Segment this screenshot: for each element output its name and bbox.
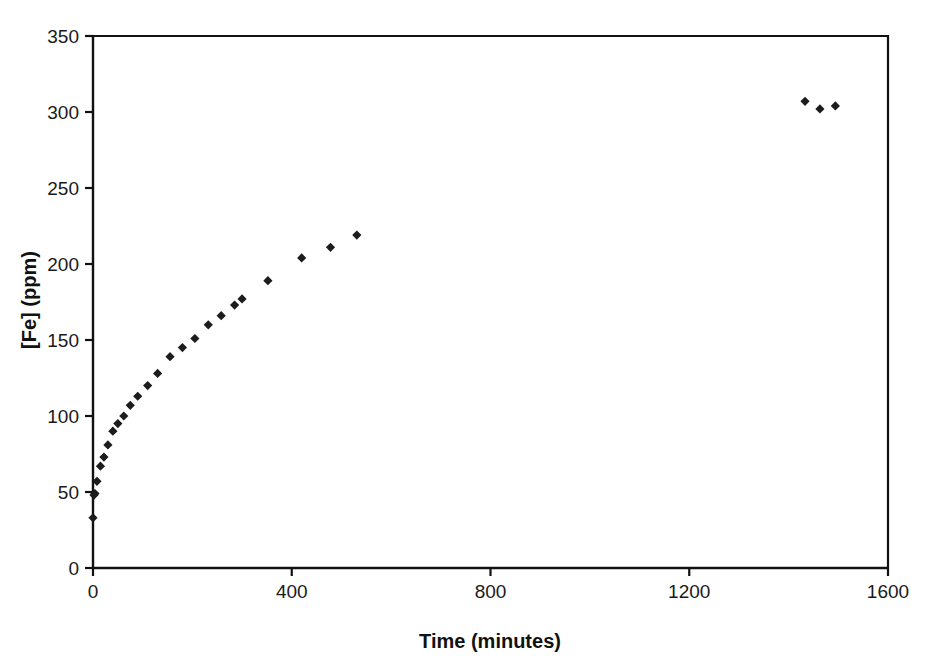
y-tick-label: 150 <box>47 330 79 351</box>
scatter-plot-canvas: 040080012001600 050100150200250300350 Ti… <box>0 0 933 661</box>
data-point-marker <box>263 276 272 285</box>
plot-frame <box>93 36 888 568</box>
y-tick-label: 350 <box>47 26 79 47</box>
data-point-marker <box>99 452 108 461</box>
y-tick-label: 200 <box>47 254 79 275</box>
data-point-marker <box>103 440 112 449</box>
data-point-marker <box>119 411 128 420</box>
y-tick-label: 50 <box>58 482 79 503</box>
data-point-marker <box>352 231 361 240</box>
data-point-marker <box>326 243 335 252</box>
y-tick-label: 0 <box>68 558 79 579</box>
chart-figure: 040080012001600 050100150200250300350 Ti… <box>0 0 933 661</box>
data-point-marker <box>800 97 809 106</box>
plot-border <box>93 36 888 568</box>
data-point-marker <box>153 369 162 378</box>
x-tick-label: 0 <box>88 581 99 602</box>
x-tick-label: 1200 <box>668 581 710 602</box>
x-tick-label: 800 <box>475 581 507 602</box>
data-point-marker <box>133 392 142 401</box>
y-tick-label: 250 <box>47 178 79 199</box>
data-point-marker <box>297 253 306 262</box>
data-point-marker <box>96 462 105 471</box>
data-point-marker <box>237 294 246 303</box>
x-axis-title: Time (minutes) <box>419 630 561 652</box>
data-point-marker <box>190 334 199 343</box>
data-point-marker <box>178 343 187 352</box>
data-point-marker <box>113 419 122 428</box>
x-tick-label: 1600 <box>867 581 909 602</box>
data-point-marker <box>230 300 239 309</box>
y-tick-label: 300 <box>47 102 79 123</box>
data-point-marker <box>126 401 135 410</box>
data-point-marker <box>165 352 174 361</box>
data-point-marker <box>217 311 226 320</box>
data-point-marker <box>831 101 840 110</box>
data-point-marker <box>143 381 152 390</box>
x-axis-tick-labels: 040080012001600 <box>88 581 909 602</box>
data-point-marker <box>108 427 117 436</box>
y-axis-tick-labels: 050100150200250300350 <box>47 26 79 579</box>
data-point-marker <box>204 320 213 329</box>
data-point-marker <box>88 513 97 522</box>
x-tick-label: 400 <box>276 581 308 602</box>
data-point-marker <box>815 104 824 113</box>
y-tick-label: 100 <box>47 406 79 427</box>
plot-axes <box>93 36 888 568</box>
data-point-series <box>88 97 840 523</box>
y-axis-title: [Fe] (ppm) <box>18 251 40 349</box>
